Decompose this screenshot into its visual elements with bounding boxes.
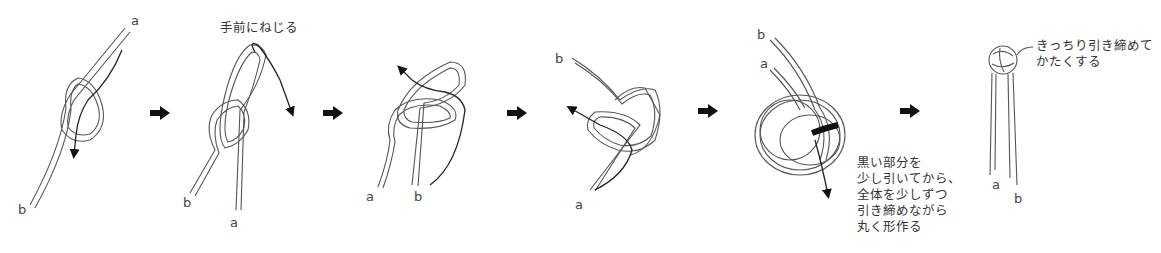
step-4-cord-b-label: b — [555, 52, 563, 65]
step-1-cord-a-label: a — [131, 14, 139, 27]
step-2-cord-a-label: a — [230, 216, 238, 229]
highlighted-cord-segment — [812, 125, 838, 133]
knot-illustrations — [0, 0, 1161, 253]
step-6-cord-a-label: a — [992, 178, 1000, 191]
step-3-knot-drawing — [378, 62, 465, 188]
next-step-arrow-2 — [323, 106, 343, 120]
next-step-arrow-1 — [150, 106, 170, 120]
step-1-knot-drawing — [30, 28, 130, 208]
step-2-knot-drawing — [190, 44, 292, 210]
step-4-knot-drawing — [570, 58, 660, 191]
step-6-knot-drawing — [989, 46, 1033, 185]
next-step-arrow-5 — [900, 104, 920, 118]
step-5-knot-drawing — [755, 38, 845, 195]
step-5-note: 黒い部分を 少し引いてから、 全体を少しずつ 引き締めながら 丸く形作る — [857, 155, 961, 235]
step-2-cord-b-label: b — [183, 196, 191, 209]
next-step-arrow-4 — [698, 104, 718, 118]
next-step-arrow-3 — [507, 106, 527, 120]
step-5-cord-b-label: b — [757, 28, 765, 41]
step-6-cord-b-label: b — [1014, 192, 1022, 205]
step-3-cord-b-label: b — [414, 190, 422, 203]
step-4-cord-a-label: a — [575, 198, 583, 211]
step-5-cord-a-label: a — [760, 57, 768, 70]
step-6-note: きっちり引き締めて かたくする — [1036, 38, 1153, 70]
step-1-cord-b-label: b — [18, 203, 26, 216]
step-2-note: 手前にねじる — [220, 20, 298, 36]
step-3-cord-a-label: a — [366, 190, 374, 203]
knot-diagram: a b 手前にねじる b a a b b a b a 黒い部分を 少し引いてから… — [0, 0, 1161, 253]
